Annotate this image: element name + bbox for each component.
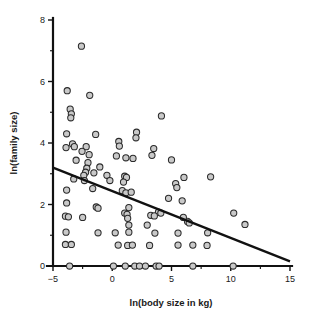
data-point-marker [190, 263, 196, 269]
data-point-marker [95, 205, 101, 211]
data-point-marker [110, 263, 116, 269]
x-tick-label: 5 [169, 274, 174, 284]
x-tick-label: −5 [48, 274, 58, 284]
data-point-marker [204, 242, 210, 248]
data-point-marker [174, 184, 180, 190]
data-point-marker [231, 210, 237, 216]
data-point-marker [158, 113, 164, 119]
data-point-marker [97, 164, 103, 170]
y-tick-label: 2 [40, 200, 45, 210]
data-point-marker [63, 229, 69, 235]
scatter-plot-figure: 02468−5051015 ln(body size in kg) ln(fam… [0, 0, 311, 319]
data-points [62, 43, 248, 269]
data-point-marker [64, 187, 70, 193]
data-point-marker [230, 263, 236, 269]
data-point-marker [91, 170, 97, 176]
axis-tick-labels: 02468−5051015 [40, 15, 295, 284]
y-tick-label: 6 [40, 77, 45, 87]
data-point-marker [78, 43, 84, 49]
data-point-marker [73, 157, 79, 163]
data-point-marker [181, 174, 187, 180]
x-tick-label: 0 [110, 274, 115, 284]
data-point-marker [179, 198, 185, 204]
data-point-marker [168, 157, 174, 163]
data-point-marker [120, 179, 126, 185]
data-point-marker [123, 155, 129, 161]
axes [47, 18, 292, 266]
data-point-marker [107, 177, 113, 183]
data-point-marker [144, 222, 150, 228]
data-point-marker [64, 88, 70, 94]
data-point-marker [129, 242, 135, 248]
data-point-marker [126, 229, 132, 235]
x-tick-label: 15 [285, 274, 295, 284]
data-point-marker [95, 230, 101, 236]
data-point-marker [156, 263, 162, 269]
data-point-marker [68, 115, 74, 121]
y-tick-label: 0 [40, 261, 45, 271]
regression-line [53, 168, 290, 262]
plot-canvas: 02468−5051015 ln(body size in kg) ln(fam… [0, 0, 311, 319]
data-point-marker [113, 153, 119, 159]
y-tick-label: 8 [40, 15, 45, 25]
data-point-marker [93, 131, 99, 137]
data-point-marker [90, 185, 96, 191]
data-point-marker [151, 213, 157, 219]
data-point-marker [149, 152, 155, 158]
data-point-marker [151, 145, 157, 151]
data-point-marker [175, 242, 181, 248]
data-point-marker [146, 242, 152, 248]
data-point-marker [66, 263, 72, 269]
y-axis-title: ln(family size) [8, 112, 19, 175]
data-point-marker [112, 230, 118, 236]
x-tick-label: 10 [226, 274, 236, 284]
data-point-marker [190, 242, 196, 248]
trend-line [53, 168, 290, 262]
data-point-marker [63, 145, 69, 151]
data-point-marker [122, 263, 128, 269]
data-point-marker [62, 241, 68, 247]
data-point-marker [152, 230, 158, 236]
data-point-marker [136, 263, 142, 269]
data-point-marker [126, 204, 132, 210]
data-point-marker [175, 230, 181, 236]
data-point-marker [142, 263, 148, 269]
data-point-marker [125, 215, 131, 221]
data-point-marker [165, 195, 171, 201]
data-point-marker [126, 222, 132, 228]
data-point-marker [208, 174, 214, 180]
data-point-marker [64, 131, 70, 137]
data-point-marker [68, 241, 74, 247]
data-point-marker [128, 189, 134, 195]
data-point-marker [130, 155, 136, 161]
data-point-marker [80, 214, 86, 220]
data-point-marker [65, 214, 71, 220]
data-point-marker [242, 221, 248, 227]
data-point-marker [64, 200, 70, 206]
data-point-marker [115, 242, 121, 248]
data-point-marker [133, 135, 139, 141]
data-point-marker [86, 152, 92, 158]
data-point-marker [79, 148, 85, 154]
data-point-marker [87, 92, 93, 98]
data-point-marker [116, 143, 122, 149]
x-axis-title: ln(body size in kg) [130, 297, 213, 308]
data-point-marker [71, 144, 77, 150]
y-tick-label: 4 [40, 138, 45, 148]
